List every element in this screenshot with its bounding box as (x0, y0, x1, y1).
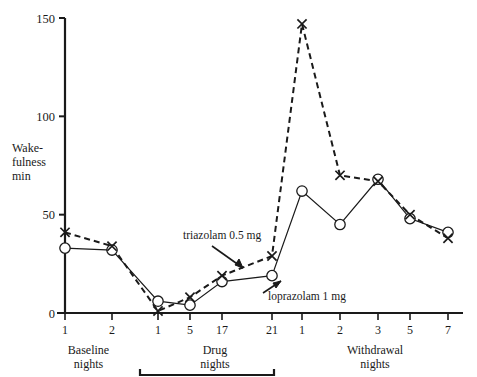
annotation-arrowhead-triazolam (235, 259, 243, 268)
x-axis-group-label: nights (360, 357, 390, 371)
x-axis-tick-label: 21 (266, 323, 278, 337)
x-axis-tick-label: 1 (299, 323, 305, 337)
x-axis-tick-label: 2 (109, 323, 115, 337)
annotation-label-triazolam: triazolam 0.5 mg (183, 229, 261, 242)
y-axis-tick-label: 150 (36, 12, 55, 26)
x-axis-tick-label: 3 (375, 323, 381, 337)
x-axis-group-label: Baseline (68, 343, 109, 357)
data-point-circle (373, 174, 383, 184)
data-point-circle (60, 243, 70, 253)
data-point-circle (217, 276, 227, 286)
x-axis-tick-label: 7 (445, 323, 451, 337)
chart-canvas: 050100150Wake-fulnessmin1215172112357Bas… (0, 0, 477, 377)
x-axis-group-label: nights (74, 357, 104, 371)
y-axis-tick-label: 0 (49, 307, 55, 321)
x-axis-tick-label: 5 (187, 323, 193, 337)
data-point-circle (297, 186, 307, 196)
x-axis-tick-label: 2 (337, 323, 343, 337)
x-axis-group-label: Drug (203, 343, 228, 357)
series-line-triazolam (65, 24, 448, 311)
data-point-cross (267, 251, 276, 260)
data-point-circle (443, 227, 453, 237)
y-axis-title: Wake- (12, 141, 43, 155)
x-axis-group-label: Withdrawal (347, 343, 404, 357)
annotation-label-loprazolam: loprazolam 1 mg (268, 290, 346, 303)
x-axis-group-label: nights (200, 357, 230, 371)
wakefulness-chart: 050100150Wake-fulnessmin1215172112357Bas… (0, 0, 477, 377)
data-point-circle (267, 270, 277, 280)
y-axis-tick-label: 100 (36, 110, 55, 124)
x-axis-tick-label: 1 (155, 323, 161, 337)
x-axis-tick-label: 5 (407, 323, 413, 337)
y-axis-title: min (12, 169, 31, 183)
data-point-circle (153, 296, 163, 306)
x-axis-tick-label: 1 (62, 323, 68, 337)
x-axis-tick-label: 17 (216, 323, 228, 337)
y-axis-title: fulness (12, 155, 46, 169)
annotation-arrowhead-loprazolam (273, 281, 281, 288)
series-line-loprazolam (65, 179, 448, 305)
y-axis-tick-label: 50 (43, 208, 56, 222)
data-point-circle (335, 219, 345, 229)
